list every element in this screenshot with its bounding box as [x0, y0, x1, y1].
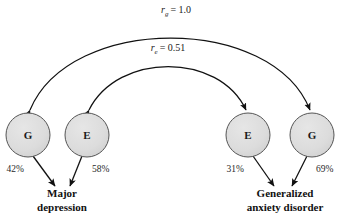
node-gad-g-letter: G: [308, 129, 317, 141]
path-diagram-svg: rg= 1.0 re= 0.51 G E E G 4: [0, 0, 342, 224]
major-depression-line1: Major: [47, 187, 77, 199]
gad-e-arrow: [253, 156, 274, 186]
node-gad-g: G: [290, 113, 334, 157]
outcome-major-depression: Major depression: [37, 187, 87, 213]
generalized-anxiety-line2: anxiety disorder: [247, 201, 324, 213]
re-value: 0.51: [168, 42, 186, 53]
node-md-g-letter: G: [24, 129, 33, 141]
gad-g-percent-label: 69%: [316, 164, 334, 174]
node-gad-e: E: [226, 113, 270, 157]
gad-g-arrow: [292, 156, 307, 186]
md-e-percent-label: 58%: [92, 164, 110, 174]
node-md-e: E: [65, 113, 109, 157]
re-arc-path: [89, 67, 246, 111]
environmental-correlation-arc: [89, 67, 246, 111]
md-g-percent-label: 42%: [7, 164, 25, 174]
node-md-g: G: [6, 113, 50, 157]
path-diagram-container: rg= 1.0 re= 0.51 G E E G 4: [0, 0, 342, 224]
node-gad-e-letter: E: [244, 129, 251, 141]
gad-e-percent-label: 31%: [227, 164, 245, 174]
major-depression-line2: depression: [37, 201, 87, 213]
re-correlation-label: re= 0.51: [151, 42, 186, 56]
rg-value: 1.0: [179, 4, 192, 15]
rg-correlation-label: rg= 1.0: [161, 4, 191, 18]
md-e-arrow: [70, 156, 82, 186]
generalized-anxiety-line1: Generalized: [257, 187, 314, 199]
outcome-generalized-anxiety-disorder: Generalized anxiety disorder: [247, 187, 324, 213]
node-md-e-letter: E: [83, 129, 90, 141]
md-g-arrow: [33, 156, 55, 186]
path-arrows: [33, 156, 307, 186]
